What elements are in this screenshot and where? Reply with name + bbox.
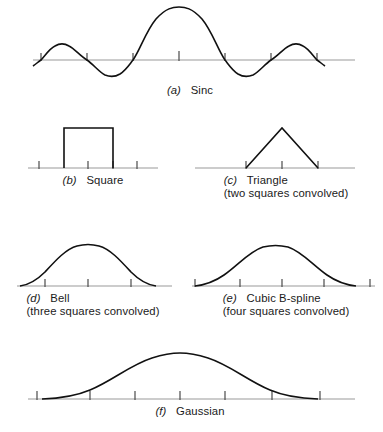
caption-bspline-letter: (e) [223,292,237,304]
caption-triangle-line1: (c) Triangle [224,174,349,187]
sinc-plot [0,0,383,82]
caption-sinc-letter: (a) [167,84,181,96]
panel-square: (b) Square [0,118,190,206]
panel-sinc: (a) Sinc [0,0,383,110]
caption-bspline-name: Cubic B-spline [246,292,320,304]
triangle-plot [190,118,383,176]
caption-triangle-subtitle: (two squares convolved) [224,187,349,200]
panel-triangle: (c) Triangle (two squares convolved) [190,118,383,216]
kernel-functions-figure: (a) Sinc (b) Square [0,0,383,432]
bspline-curve [195,246,356,287]
caption-bspline-line1: (e) Cubic B-spline [223,292,350,305]
panel-bspline: (e) Cubic B-spline (four squares convolv… [190,236,383,336]
caption-bell-line1: (d) Bell [26,292,159,305]
caption-bspline-subtitle: (four squares convolved) [223,305,350,318]
caption-gaussian-letter: (f) [155,405,166,417]
caption-bell-subtitle: (three squares convolved) [26,305,159,318]
caption-bell-name: Bell [50,292,69,304]
caption-triangle: (c) Triangle (two squares convolved) [224,174,349,201]
caption-square-name: Square [86,174,123,186]
bspline-plot [190,236,383,294]
panel-bell: (d) Bell (three squares convolved) [0,236,190,336]
bell-plot [0,236,190,294]
gaussian-plot [0,345,383,407]
caption-sinc: (a) Sinc [167,84,213,97]
caption-square-letter: (b) [63,174,77,186]
caption-bspline: (e) Cubic B-spline (four squares convolv… [223,292,350,319]
caption-bell: (d) Bell (three squares convolved) [26,292,159,319]
caption-gaussian: (f) Gaussian [155,405,224,418]
sinc-curve [33,7,325,76]
caption-sinc-name: Sinc [191,84,213,96]
caption-square: (b) Square [63,174,124,187]
caption-triangle-name: Triangle [247,174,288,186]
caption-gaussian-name: Gaussian [176,405,225,417]
caption-bell-letter: (d) [26,292,40,304]
square-plot [0,118,190,176]
caption-triangle-letter: (c) [224,174,237,186]
panel-gaussian: (f) Gaussian [0,345,383,432]
